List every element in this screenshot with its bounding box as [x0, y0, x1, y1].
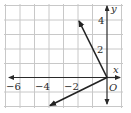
y-tick-label: 2	[97, 44, 103, 55]
coordinate-plane: y x O −6 −4 −2 4 2	[0, 0, 131, 113]
x-tick-label: −6	[6, 81, 21, 92]
y-axis-label: y	[110, 3, 117, 14]
x-axis-label: x	[113, 64, 119, 75]
x-tick-label: −4	[35, 81, 50, 92]
grid	[4, 4, 123, 108]
x-tick-label: −2	[64, 81, 79, 92]
origin-label: O	[109, 82, 117, 93]
y-tick-label: 4	[98, 15, 104, 26]
